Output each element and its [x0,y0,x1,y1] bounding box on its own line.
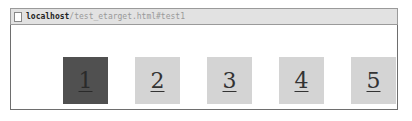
link-3[interactable]: 3 [207,57,252,104]
address-path: /test_etarget.html#test1 [69,12,185,21]
link-2[interactable]: 2 [135,57,180,104]
page-icon [14,12,22,22]
link-1[interactable]: 1 [63,57,108,104]
link-4[interactable]: 4 [279,57,324,104]
link-5[interactable]: 5 [351,57,396,104]
address-host: localhost [26,12,69,21]
address-bar[interactable]: localhost /test_etarget.html#test1 [10,8,398,25]
